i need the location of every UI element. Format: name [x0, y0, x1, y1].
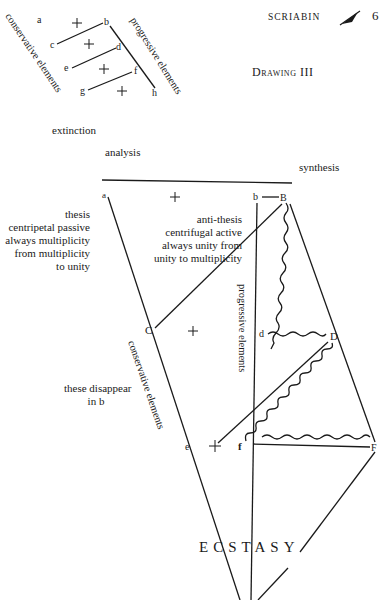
small-progressive-label: progressive elements — [128, 15, 184, 96]
node-a-small: a — [37, 14, 42, 25]
node-B: B — [280, 192, 287, 203]
node-e: e — [185, 441, 190, 452]
node-d-small: d — [116, 41, 121, 52]
node-a: a — [102, 190, 106, 200]
node-C: C — [145, 324, 152, 336]
plus-marks-main — [170, 192, 221, 452]
progressive-label: progressive elements — [237, 284, 248, 372]
node-b-small: b — [104, 16, 109, 27]
node-e-small: e — [64, 62, 69, 73]
node-h-small: h — [152, 87, 157, 98]
small-conservative-label: conservative elements — [3, 11, 64, 94]
node-g-small: g — [80, 85, 85, 96]
node-F: F — [371, 442, 377, 453]
node-f: f — [238, 440, 242, 452]
conservative-label: conservative elements — [126, 339, 167, 431]
node-f-small: f — [134, 65, 138, 76]
node-b: b — [253, 191, 258, 202]
node-d: d — [259, 328, 264, 339]
node-c-small: c — [50, 39, 55, 50]
node-D: D — [330, 330, 338, 342]
diagram-canvas: a b c d e f g h conservative elements pr… — [0, 0, 381, 600]
